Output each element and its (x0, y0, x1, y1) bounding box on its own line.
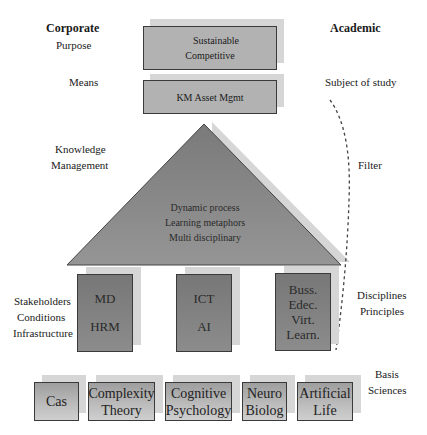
filter-label: Filter (358, 157, 382, 173)
neuro-text: Neuro (247, 385, 282, 402)
foundation-cas: Cas (34, 382, 79, 421)
complexity-text: Complexity (88, 385, 154, 402)
artificial-text: Artificial (299, 385, 350, 402)
foundation-artificial-life: Artificial Life (297, 382, 353, 421)
pillar-buss-edec: Buss. Edec. Virt. Learn. (275, 273, 331, 351)
knowledge-label: Knowledge (55, 141, 106, 157)
competitive-text: Competitive (185, 48, 234, 63)
sciences-label: Sciences (368, 382, 406, 398)
km-asset-mgmt-text: KM Asset Mgmt (176, 90, 243, 105)
triangle-text: Dynamic process Learning metaphors Multi… (150, 200, 260, 245)
sustainable-text: Sustainable (181, 33, 239, 48)
edec-text: Edec. (288, 297, 317, 312)
means-box: KM Asset Mgmt (143, 80, 277, 114)
learn-text: Learn. (286, 327, 320, 342)
means-label: Means (69, 74, 98, 90)
subject-of-study-label: Subject of study (325, 74, 397, 90)
virt-text: Virt. (291, 312, 314, 327)
dynamic-process-text: Dynamic process (150, 200, 260, 215)
pillar-md-hrm: MD HRM (77, 274, 133, 352)
pillar-ict-ai: ICT AI (176, 274, 232, 352)
md-text: MD (95, 291, 116, 307)
infrastructure-label: Infrastructure (13, 325, 73, 341)
principles-label: Principles (360, 303, 404, 319)
academic-header: Academic (330, 20, 381, 36)
basis-label: Basis (375, 366, 399, 382)
multi-disciplinary-text: Multi disciplinary (150, 230, 260, 245)
ict-text: ICT (194, 291, 215, 307)
learning-metaphors-text: Learning metaphors (150, 215, 260, 230)
conditions-label: Conditions (17, 309, 65, 325)
corporate-header: Corporate (46, 20, 99, 36)
purpose-box: Sustainable Competitive (143, 26, 277, 70)
hrm-text: HRM (90, 319, 120, 335)
purpose-label: Purpose (56, 37, 91, 53)
cognitive-text: Cognitive (171, 385, 226, 402)
ai-text: AI (197, 319, 211, 335)
stakeholders-label: Stakeholders (14, 293, 71, 309)
foundation-neuro-biolog: Neuro Biolog (242, 382, 287, 421)
foundation-cognitive-psychology: Cognitive Psychology (165, 382, 232, 421)
cas-text: Cas (46, 393, 67, 410)
psychology-text: Psychology (166, 402, 231, 419)
management-label: Management (51, 157, 108, 173)
theory-text: Theory (101, 402, 141, 419)
foundation-complexity-theory: Complexity Theory (88, 382, 155, 421)
biolog-text: Biolog (245, 402, 283, 419)
life-text: Life (313, 402, 336, 419)
disciplines-label: Disciplines (357, 287, 407, 303)
buss-text: Buss. (289, 282, 318, 297)
